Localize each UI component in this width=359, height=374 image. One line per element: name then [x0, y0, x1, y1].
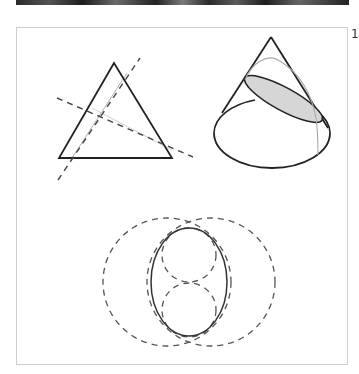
small-dashed-circle-top: [162, 228, 216, 282]
dashed-line-1: [58, 58, 140, 180]
triangle-panel: [57, 58, 193, 180]
cone-base-front: [214, 133, 330, 168]
circles-panel: [103, 218, 275, 346]
solid-ellipse: [151, 228, 227, 336]
faint-line-b: [92, 108, 172, 150]
cone-base-back: [214, 100, 255, 133]
triangle: [59, 63, 172, 158]
cone-panel: [214, 37, 330, 168]
figure-drawing: [0, 0, 359, 374]
cone-section-ellipse: [239, 68, 327, 130]
faint-line-a: [72, 73, 127, 158]
